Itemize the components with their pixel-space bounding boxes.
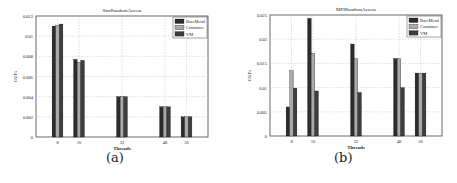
- bar-vm: [81, 60, 85, 137]
- bar-vm: [124, 97, 128, 137]
- y-tick-label: 0.01: [259, 86, 267, 91]
- legend-label: Container: [186, 25, 204, 30]
- chart-a-plot: 00.0020.0040.0060.0080.010.012816324856S…: [0, 0, 228, 160]
- y-tick-label: 0.004: [23, 95, 34, 100]
- bar-baremetal: [52, 26, 56, 137]
- x-tick-label: 16: [311, 139, 316, 144]
- bar-vm: [59, 24, 63, 137]
- legend-swatch: [409, 31, 418, 35]
- bar-vm: [188, 117, 192, 137]
- bar-container: [56, 25, 60, 137]
- y-tick-label: 0.012: [23, 14, 33, 19]
- bar-baremetal: [308, 18, 312, 136]
- x-tick-label: 48: [163, 140, 168, 145]
- bar-baremetal: [351, 44, 355, 136]
- y-tick-label: 0.01: [25, 34, 33, 39]
- y-tick-label: 0.025: [257, 13, 268, 18]
- bar-baremetal: [160, 107, 164, 137]
- bar-container: [163, 107, 167, 137]
- x-tick-label: 48: [397, 139, 402, 144]
- y-tick-label: 0.005: [257, 110, 268, 115]
- bar-container: [120, 97, 124, 137]
- bar-container: [185, 117, 189, 137]
- bar-baremetal: [394, 59, 398, 136]
- chart-title: MPIRandomAccess: [336, 7, 376, 12]
- legend-swatch: [175, 25, 184, 30]
- chart-b-plot: 00.0050.010.0150.020.025816324856MPIRand…: [228, 0, 457, 160]
- y-tick-label: 0: [31, 135, 34, 140]
- x-tick-label: 56: [184, 140, 189, 145]
- y-tick-label: 0.02: [259, 37, 267, 42]
- x-tick-label: 56: [418, 139, 423, 144]
- y-tick-label: 0.008: [23, 54, 34, 59]
- legend-swatch: [175, 32, 184, 36]
- legend-swatch: [409, 24, 418, 29]
- y-axis-label: GUPs: [247, 70, 252, 81]
- legend-label: VM: [186, 32, 193, 37]
- x-tick-label: 8: [290, 139, 293, 144]
- bar-vm: [422, 73, 426, 136]
- chart-b: 00.0050.010.0150.020.025816324856MPIRand…: [228, 0, 457, 183]
- y-tick-label: 0.002: [23, 115, 33, 120]
- bar-baremetal: [74, 59, 78, 137]
- y-tick-label: 0.015: [257, 61, 268, 66]
- bar-baremetal: [181, 117, 185, 137]
- bar-vm: [358, 92, 362, 136]
- bar-baremetal: [117, 97, 121, 137]
- x-tick-label: 16: [77, 140, 82, 145]
- bar-vm: [401, 88, 405, 136]
- x-tick-label: 8: [56, 140, 59, 145]
- bar-container: [419, 73, 423, 136]
- y-axis-label: GUPs: [13, 71, 18, 82]
- bar-container: [290, 71, 294, 136]
- legend-label: BareMetal: [420, 18, 440, 23]
- bar-container: [397, 59, 401, 136]
- bar-baremetal: [415, 73, 419, 136]
- bar-vm: [293, 88, 297, 136]
- x-tick-label: 32: [354, 139, 359, 144]
- legend-swatch: [175, 19, 184, 24]
- bar-baremetal: [286, 107, 290, 136]
- chart-title: StarRandomAccess: [102, 8, 141, 13]
- y-tick-label: 0: [265, 134, 268, 139]
- bar-vm: [167, 107, 171, 137]
- chart-b-caption: (b): [334, 150, 352, 165]
- legend-label: BareMetal: [186, 19, 206, 24]
- chart-a: 00.0020.0040.0060.0080.010.012816324856S…: [0, 0, 228, 183]
- bar-vm: [315, 91, 319, 136]
- chart-a-caption: (a): [106, 150, 124, 165]
- legend-swatch: [409, 18, 418, 23]
- legend-label: Container: [420, 24, 438, 29]
- y-tick-label: 0.006: [23, 75, 34, 80]
- legend-label: VM: [420, 31, 427, 36]
- bar-container: [77, 62, 81, 137]
- x-tick-label: 32: [120, 140, 125, 145]
- bar-container: [354, 59, 358, 136]
- bar-container: [311, 53, 315, 136]
